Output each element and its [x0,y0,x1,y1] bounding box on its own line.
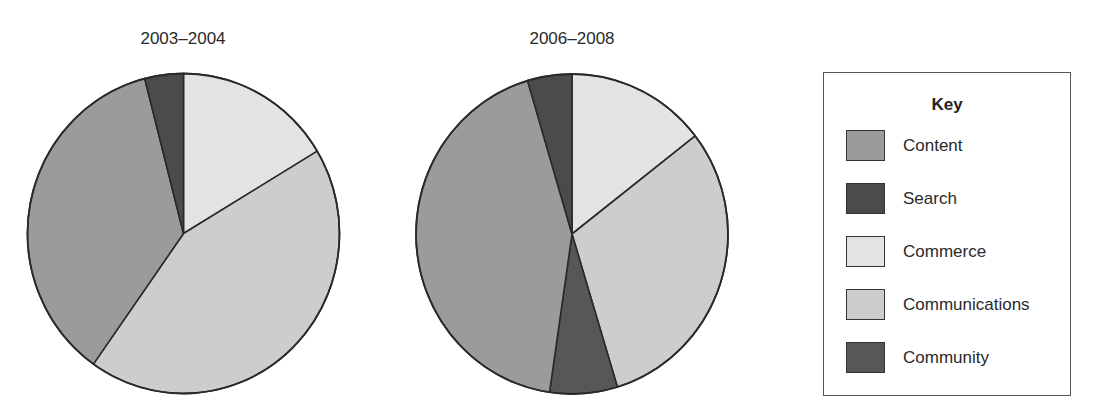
legend-item-community: Community [846,341,989,374]
pie-chart-2003-2004 [28,74,340,394]
pie-chart-2006-2008 [416,74,728,394]
legend-item-commerce: Commerce [846,235,986,268]
legend-item-communications: Communications [846,288,1030,321]
legend-item-search: Search [846,182,957,215]
legend-label: Community [903,348,989,368]
legend-swatch-commerce [846,236,885,267]
legend-label: Commerce [903,242,986,262]
legend-key: Key Content Search Commerce Communicatio… [823,72,1071,396]
legend-swatch-community [846,342,885,373]
legend-swatch-content [846,130,885,161]
legend-swatch-communications [846,289,885,320]
legend-swatch-search [846,183,885,214]
legend-label: Content [903,136,963,156]
legend-title: Key [824,95,1070,115]
legend-item-content: Content [846,129,963,162]
legend-label: Communications [903,295,1030,315]
legend-label: Search [903,189,957,209]
